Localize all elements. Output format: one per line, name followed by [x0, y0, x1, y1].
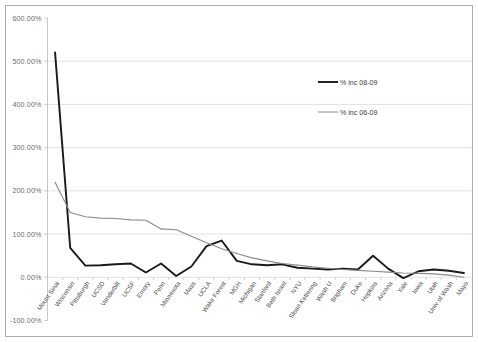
x-axis-tick-label: Yale	[396, 279, 409, 293]
x-axis-tick-label: Emory	[135, 279, 153, 299]
series-line-1	[55, 53, 464, 279]
x-axis-tick-label: Arizona	[375, 279, 393, 301]
legend-label-1: % inc 08-09	[340, 79, 378, 87]
series-line-2	[55, 182, 464, 277]
line-chart: 600.00%500.00%400.00%300.00%200.00%100.0…	[0, 0, 478, 342]
y-axis-tick-label: 100.00%	[12, 230, 42, 239]
y-axis-tick-label: 600.00%	[12, 14, 42, 23]
y-axis-tick-label: -100.00%	[10, 316, 42, 325]
data-series-group	[55, 53, 464, 279]
x-axis-tick-label: MGH	[228, 280, 243, 297]
x-axis-tick-label: Duke	[349, 279, 364, 296]
y-tick-marks-group	[44, 18, 47, 321]
x-axis-tick-label: NYU	[289, 280, 303, 295]
y-axis-tick-label: 500.00%	[12, 57, 42, 66]
y-axis-tick-label: 300.00%	[12, 143, 42, 152]
y-axis-tick-label: 0.00%	[21, 273, 42, 282]
x-tick-marks-group	[63, 277, 457, 280]
x-axis-tick-label: Utah	[425, 279, 439, 294]
chart-legend: % inc 08-09% inc 06-09	[318, 79, 378, 117]
legend-label-2: % inc 06-09	[340, 109, 378, 117]
x-axis-tick-label: Iowa	[410, 279, 424, 294]
y-axis-tick-labels: 600.00%500.00%400.00%300.00%200.00%100.0…	[10, 14, 42, 326]
y-axis-tick-label: 200.00%	[12, 186, 42, 195]
x-axis-tick-label: Mayo	[455, 279, 471, 297]
x-axis-tick-labels: Mount SinaiWisconsinPittsburghUCSDVander…	[35, 279, 470, 320]
x-axis-tick-label: Penn	[152, 279, 167, 296]
y-axis-tick-label: 400.00%	[12, 100, 42, 109]
chart-container: 600.00%500.00%400.00%300.00%200.00%100.0…	[0, 0, 478, 342]
x-axis-tick-label: Mass	[182, 280, 196, 297]
